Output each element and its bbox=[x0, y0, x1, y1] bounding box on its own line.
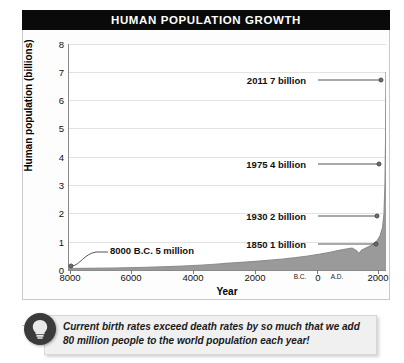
annotation-2011: 2011 7 billion bbox=[247, 75, 306, 86]
y-axis-title: Human population (billions) bbox=[23, 26, 34, 186]
annotation-1975: 1975 4 billion bbox=[246, 159, 306, 170]
y-tick-2: 2 bbox=[44, 208, 64, 219]
y-tick-6: 6 bbox=[44, 95, 64, 106]
y-tick-8: 8 bbox=[44, 39, 64, 50]
leader-line-8000bc bbox=[70, 245, 110, 269]
page-title: HUMAN POPULATION GROWTH bbox=[111, 14, 301, 26]
annotation-1930: 1930 2 billion bbox=[246, 211, 306, 222]
leader-line-2011 bbox=[318, 80, 380, 81]
x-tick-4000bc: 4000 bbox=[182, 272, 203, 283]
x-tick-zero: 0 bbox=[315, 272, 320, 283]
leader-line-1930 bbox=[318, 216, 376, 217]
annotation-1850: 1850 1 billion bbox=[246, 239, 306, 250]
y-tick-7: 7 bbox=[44, 67, 64, 78]
x-era-bc: B.C. bbox=[294, 273, 307, 280]
y-tick-4: 4 bbox=[44, 152, 64, 163]
marker-8000bc bbox=[69, 264, 74, 269]
marker-1930 bbox=[375, 214, 380, 219]
marker-2011 bbox=[379, 78, 384, 83]
lightbulb-icon bbox=[24, 313, 56, 345]
leader-line-1850 bbox=[318, 244, 375, 245]
annotation-8000bc: 8000 B.C. 5 million bbox=[110, 245, 194, 256]
x-tick-8000bc: 8000 bbox=[59, 272, 80, 283]
population-area-curve bbox=[68, 44, 386, 270]
plot-area bbox=[68, 44, 386, 270]
x-era-ad: A.D. bbox=[331, 273, 344, 280]
chart-title-bar: HUMAN POPULATION GROWTH bbox=[22, 10, 390, 30]
marker-1850 bbox=[374, 242, 379, 247]
marker-1975 bbox=[377, 162, 382, 167]
x-tick-2000ad: 2000 bbox=[367, 272, 388, 283]
x-tick-6000bc: 6000 bbox=[120, 272, 141, 283]
y-axis-line bbox=[68, 44, 69, 271]
caption-text: Current birth rates exceed death rates b… bbox=[63, 320, 373, 348]
y-tick-3: 3 bbox=[44, 180, 64, 191]
x-tick-2000bc: 2000 bbox=[244, 272, 265, 283]
y-tick-1: 1 bbox=[44, 237, 64, 248]
leader-line-1975 bbox=[318, 164, 378, 165]
y-tick-labels: 0 1 2 3 4 5 6 7 8 bbox=[44, 44, 64, 270]
x-axis-line bbox=[68, 270, 386, 271]
x-axis-title: Year bbox=[68, 286, 386, 297]
population-growth-figure: HUMAN POPULATION GROWTH 0 1 2 3 4 5 6 7 … bbox=[0, 0, 404, 363]
y-tick-5: 5 bbox=[44, 123, 64, 134]
